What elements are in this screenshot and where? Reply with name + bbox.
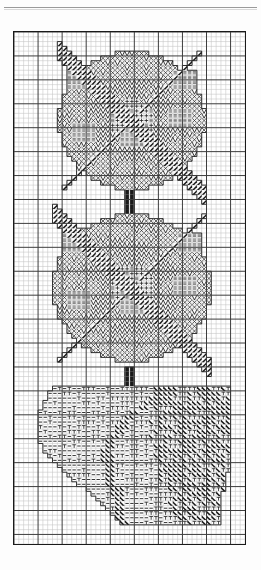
pattern-chart-frame[interactable] <box>13 31 246 545</box>
page-top-rule <box>4 7 257 8</box>
chart-page <box>0 0 261 570</box>
pattern-chart-canvas <box>14 32 245 544</box>
stitch-symbol-layer <box>14 32 245 544</box>
page-top-rule-shadow <box>4 9 257 10</box>
